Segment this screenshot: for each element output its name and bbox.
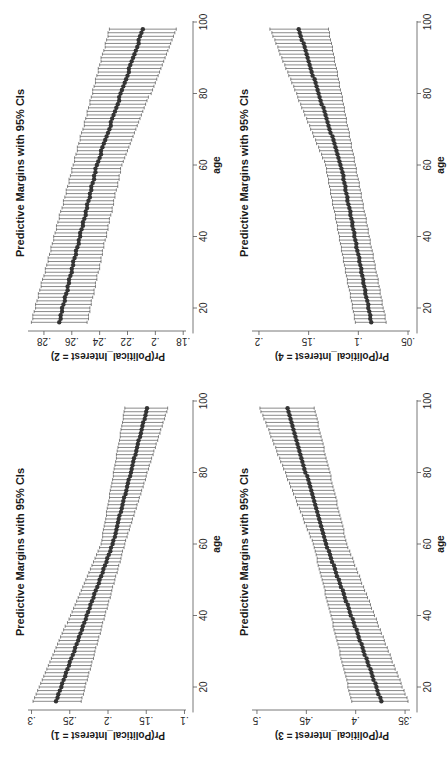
x-tick-label: 100 xyxy=(422,13,433,30)
y-tick-label: .3 xyxy=(27,715,36,726)
y-axis-title: Pr(Political_Interest = 3) xyxy=(275,730,389,741)
x-tick-label: 60 xyxy=(198,159,209,171)
margin-point xyxy=(297,27,301,31)
y-axis-title: Pr(Political_Interest = 1) xyxy=(51,730,165,741)
y-tick-label: .45 xyxy=(299,715,313,726)
x-axis-title: age xyxy=(211,156,222,174)
y-tick-label: .2 xyxy=(151,336,160,347)
y-tick-label: .18 xyxy=(176,336,190,347)
y-tick-label: .15 xyxy=(301,336,315,347)
y-axis-title: Pr(Political_Interest = 4) xyxy=(275,351,389,362)
y-tick-label: .1 xyxy=(354,336,363,347)
x-axis-title: age xyxy=(435,156,446,174)
chart-title: Predictive Margins with 95% CIs xyxy=(14,89,26,257)
x-tick-label: 60 xyxy=(422,538,433,550)
x-tick-label: 40 xyxy=(198,231,209,243)
chart-panel-interest-3: Predictive Margins with 95% CIs204060801… xyxy=(224,379,448,758)
ci-bars xyxy=(270,28,386,324)
y-tick-label: .24 xyxy=(92,336,106,347)
x-tick-label: 100 xyxy=(422,392,433,409)
y-axis-title: Pr(Political_Interest = 2) xyxy=(51,351,165,362)
x-tick-label: 80 xyxy=(422,88,433,100)
y-tick-label: .15 xyxy=(139,715,153,726)
x-tick-label: 100 xyxy=(198,13,209,30)
x-tick-label: 60 xyxy=(422,159,433,171)
y-tick-label: .5 xyxy=(252,715,261,726)
y-tick-label: .22 xyxy=(120,336,134,347)
chart-panel-interest-1: Predictive Margins with 95% CIs204060801… xyxy=(0,379,224,758)
y-tick-label: .35 xyxy=(398,715,412,726)
y-tick-label: .2 xyxy=(103,715,112,726)
chart-svg: Predictive Margins with 95% CIs204060801… xyxy=(224,0,448,379)
x-tick-label: 80 xyxy=(422,467,433,479)
chart-panel-interest-2: Predictive Margins with 95% CIs204060801… xyxy=(0,0,224,379)
x-tick-label: 80 xyxy=(198,88,209,100)
y-tick-label: .2 xyxy=(254,336,263,347)
x-tick-label: 60 xyxy=(198,538,209,550)
margin-point xyxy=(285,406,289,410)
x-tick-label: 20 xyxy=(198,302,209,314)
y-tick-label: .4 xyxy=(351,715,360,726)
chart-title: Predictive Margins with 95% CIs xyxy=(238,89,250,257)
ci-bars xyxy=(31,28,176,324)
ci-bars xyxy=(260,407,408,703)
x-tick-label: 20 xyxy=(198,681,209,693)
x-tick-label: 20 xyxy=(422,302,433,314)
y-tick-label: .05 xyxy=(401,336,415,347)
chart-svg: Predictive Margins with 95% CIs204060801… xyxy=(224,379,448,758)
x-tick-label: 100 xyxy=(198,392,209,409)
margin-point xyxy=(141,27,145,31)
x-tick-label: 40 xyxy=(422,231,433,243)
ci-bars xyxy=(33,407,168,703)
chart-svg: Predictive Margins with 95% CIs204060801… xyxy=(0,379,224,758)
x-axis-title: age xyxy=(211,535,222,553)
x-axis-title: age xyxy=(435,535,446,553)
y-tick-label: .28 xyxy=(37,336,51,347)
y-tick-label: .25 xyxy=(62,715,76,726)
y-tick-label: .1 xyxy=(180,715,189,726)
chart-svg: Predictive Margins with 95% CIs204060801… xyxy=(0,0,224,379)
x-tick-label: 40 xyxy=(198,610,209,622)
margin-point xyxy=(145,406,149,410)
x-tick-label: 80 xyxy=(198,467,209,479)
y-tick-label: .26 xyxy=(64,336,78,347)
chart-title: Predictive Margins with 95% CIs xyxy=(14,468,26,636)
x-tick-label: 20 xyxy=(422,681,433,693)
chart-title: Predictive Margins with 95% CIs xyxy=(238,468,250,636)
x-tick-label: 40 xyxy=(422,610,433,622)
chart-panel-interest-4: Predictive Margins with 95% CIs204060801… xyxy=(224,0,448,379)
